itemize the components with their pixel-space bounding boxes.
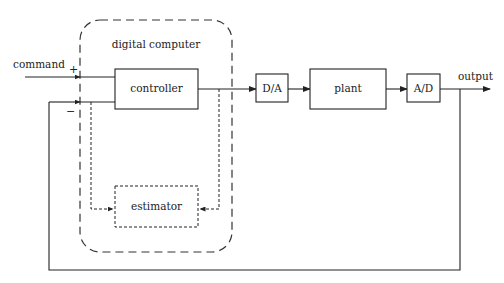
adc-block: A/D [407, 74, 440, 102]
output-label: output [458, 70, 494, 82]
estimator-block: estimator [115, 186, 198, 227]
feedback-loop-line [49, 89, 460, 270]
feedback-signal: − [49, 102, 115, 118]
digital-computer-label: digital computer [112, 38, 201, 50]
feedback-to-estimator-dotted [91, 102, 113, 209]
adc-label: A/D [413, 82, 434, 94]
dac-block: D/A [256, 74, 288, 102]
block-diagram: digital computer command + − controller … [0, 0, 504, 283]
controller-block: controller [115, 69, 198, 109]
control-to-estimator-dotted [200, 89, 219, 209]
plant-label: plant [334, 82, 362, 94]
command-label: command [13, 58, 65, 70]
dac-label: D/A [262, 82, 282, 94]
minus-sign: − [66, 105, 75, 118]
estimator-label: estimator [131, 200, 183, 212]
plus-sign: + [69, 63, 78, 76]
plant-block: plant [310, 69, 386, 109]
output-signal: output [440, 70, 494, 89]
command-signal: command + [13, 58, 115, 77]
controller-label: controller [130, 82, 183, 94]
